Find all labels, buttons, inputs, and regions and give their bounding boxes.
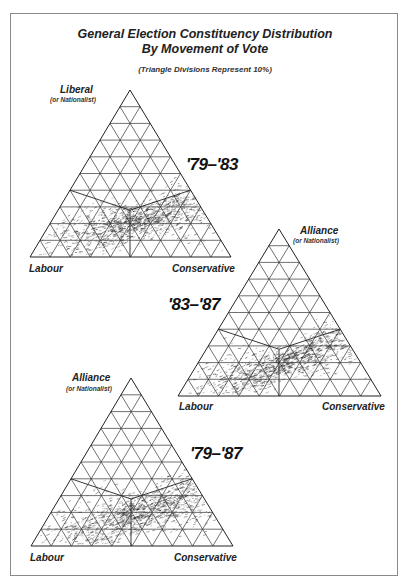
- axis-label-top: Liberal: [60, 84, 93, 95]
- axis-label-right: Conservative: [322, 401, 385, 412]
- axis-label-right: Conservative: [172, 263, 235, 274]
- axis-label-top-sub: (or Nationalist): [293, 237, 339, 244]
- axis-label-right: Conservative: [174, 552, 237, 563]
- axis-label-top-sub: (or Nationalist): [50, 96, 96, 103]
- chart-period-label: '79–'87: [190, 444, 242, 464]
- chart-period-label: '79–'83: [186, 155, 238, 175]
- axis-label-top-sub: (or Nationalist): [66, 385, 112, 392]
- chart-period-label: '83–'87: [168, 295, 220, 315]
- axis-label-left: Labour: [179, 401, 213, 412]
- axis-label-top: Alliance: [300, 225, 338, 236]
- axis-label-left: Labour: [30, 552, 64, 563]
- axis-label-left: Labour: [29, 263, 63, 274]
- axis-label-top: Alliance: [72, 372, 110, 383]
